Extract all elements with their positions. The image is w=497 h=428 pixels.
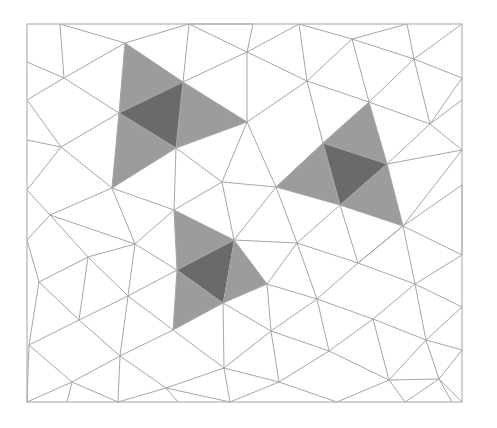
mesh-edge: [135, 210, 174, 244]
mesh-edge: [234, 240, 297, 243]
mesh-edge: [222, 122, 247, 182]
mesh-edge: [230, 382, 279, 402]
mesh-edge: [430, 124, 462, 150]
mesh-edge: [297, 205, 340, 243]
mesh-edge: [183, 52, 247, 82]
mesh-edge: [426, 340, 439, 379]
mesh-edge: [39, 257, 88, 282]
mesh-edge: [27, 100, 61, 147]
mesh-edge: [407, 24, 414, 59]
mesh-edge: [247, 24, 253, 52]
mesh-edge: [369, 102, 430, 124]
mesh-edge: [222, 182, 276, 187]
mesh-edge: [279, 351, 329, 382]
mesh-edge: [29, 320, 79, 345]
mesh-edge: [358, 226, 403, 263]
triangular-mesh-canvas: [0, 0, 497, 428]
mesh-edge: [118, 388, 166, 402]
mesh-edge: [173, 330, 224, 368]
mesh-edge: [352, 39, 369, 102]
mesh-edge: [39, 282, 79, 320]
mesh-edge: [329, 351, 389, 380]
mesh-edge: [60, 24, 64, 78]
mesh-edge: [112, 188, 135, 244]
mesh-edge: [166, 368, 224, 388]
mesh-edge: [439, 350, 462, 379]
mesh-edge: [387, 124, 430, 164]
mesh-edge: [267, 284, 271, 331]
mesh-edge: [358, 263, 415, 284]
mesh-edge: [67, 382, 72, 402]
mesh-edge: [299, 24, 307, 81]
mesh-edge: [405, 379, 439, 402]
mesh-edge: [174, 182, 222, 210]
mesh-edge: [120, 356, 166, 388]
mesh-edge: [118, 356, 120, 402]
mesh-edge: [223, 303, 271, 331]
mesh-edge: [340, 205, 358, 263]
mesh-edge: [27, 190, 50, 215]
mesh-edge: [267, 284, 317, 299]
mesh-edge: [389, 380, 405, 402]
mesh-edge: [337, 380, 389, 402]
mesh-edge: [403, 185, 462, 226]
mesh-edge: [50, 188, 112, 215]
mesh-edge: [307, 81, 323, 143]
cluster-right: [276, 102, 403, 226]
mesh-edge: [88, 257, 128, 296]
mesh-edge: [403, 226, 462, 255]
mesh-edge: [79, 320, 120, 356]
mesh-edge: [389, 379, 439, 380]
mesh-edge: [64, 78, 119, 113]
mesh-edge: [135, 244, 177, 270]
mesh-edge: [128, 270, 177, 296]
mesh-edge: [279, 382, 337, 402]
mesh-edge: [403, 226, 415, 284]
mesh-edge: [414, 24, 462, 59]
mesh-edge: [125, 24, 189, 43]
mesh-edge: [414, 59, 430, 124]
mesh-edge: [317, 299, 373, 319]
mesh-edge: [112, 188, 174, 210]
mesh-edge: [224, 368, 279, 382]
mesh-edge: [27, 78, 64, 100]
mesh-edge: [307, 39, 352, 81]
mesh-edge: [271, 299, 317, 331]
mesh-edge: [128, 296, 173, 330]
mesh-edge: [414, 59, 462, 78]
mesh-edge: [389, 340, 426, 380]
mesh-edge: [29, 345, 72, 382]
mesh-edge: [247, 52, 307, 81]
mesh-edge: [267, 243, 297, 284]
mesh-edge: [174, 148, 176, 210]
mesh-edge: [61, 113, 119, 147]
mesh-edge: [29, 282, 39, 345]
mesh-edge: [297, 243, 317, 299]
mesh-edge: [88, 244, 135, 257]
mesh-edge: [247, 122, 276, 187]
mesh-edge: [387, 150, 462, 164]
mesh-edge: [222, 182, 234, 240]
mesh-edge: [60, 24, 125, 43]
mesh-edge: [27, 147, 61, 190]
mesh-edge: [317, 263, 358, 299]
mesh-edge: [27, 140, 61, 147]
mesh-edge: [224, 331, 271, 368]
mesh-edge: [352, 39, 414, 59]
mesh-edge: [27, 240, 39, 282]
mesh-edge: [299, 24, 352, 39]
shaded-triangle-clusters: [112, 43, 403, 330]
mesh-edge: [403, 150, 462, 226]
mesh-edge: [307, 81, 369, 102]
mesh-edge: [189, 24, 247, 52]
cluster-bottom: [173, 210, 267, 330]
mesh-edge: [234, 187, 276, 240]
mesh-edge: [373, 319, 389, 380]
mesh-edge: [373, 319, 426, 340]
mesh-edge: [183, 24, 189, 82]
mesh-edge: [64, 43, 125, 78]
mesh-edge: [430, 78, 462, 124]
mesh-edge: [223, 303, 224, 368]
mesh-edge: [271, 331, 279, 382]
mesh-edge: [72, 356, 120, 382]
